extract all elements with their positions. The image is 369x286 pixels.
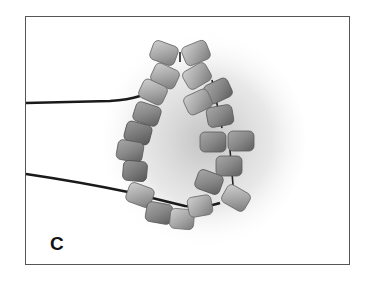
bead: [186, 194, 213, 218]
bead: [115, 139, 144, 163]
bead: [205, 104, 234, 128]
bead: [144, 201, 173, 225]
bead: [216, 156, 242, 176]
bead: [200, 132, 226, 152]
bead: [122, 160, 148, 182]
panel-label: C: [50, 234, 64, 253]
bead: [228, 131, 254, 151]
